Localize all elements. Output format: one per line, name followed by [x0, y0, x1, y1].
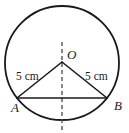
point-a-label: A: [10, 100, 19, 115]
point-b-label: B: [114, 98, 122, 113]
geometry-figure: O A B 5 cm 5 cm: [0, 0, 129, 133]
radius-oa-measure-label: 5 cm: [16, 70, 39, 82]
point-o-label: O: [67, 47, 77, 62]
radius-ob-measure-label: 5 cm: [85, 70, 108, 82]
geometry-canvas: O A B 5 cm 5 cm: [0, 0, 129, 133]
